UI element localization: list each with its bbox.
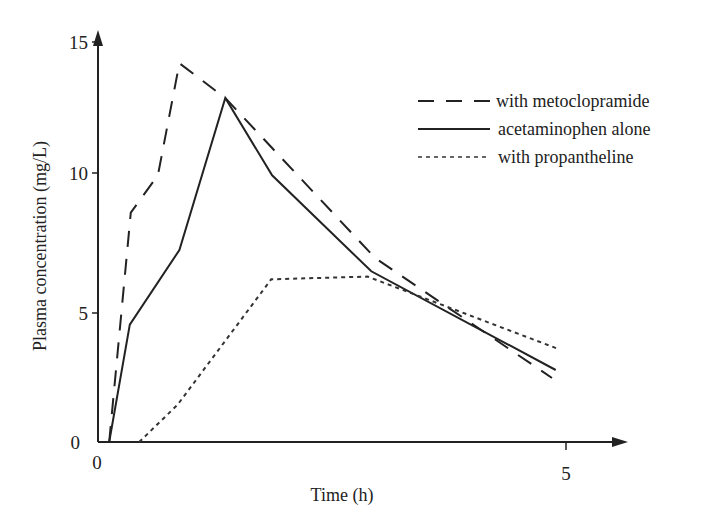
x-tick-label-0: 0 [92, 452, 102, 473]
y-tick-label-5: 5 [79, 303, 89, 324]
x-tick-label-5: 5 [561, 463, 571, 484]
series-with-propantheline [139, 277, 557, 442]
legend-label: acetaminophen alone [498, 119, 650, 139]
legend: with metoclopramide acetaminophen alone … [418, 91, 650, 167]
chart-canvas: 15 10 5 0 0 5 Time (h) Plasma concentrat… [0, 0, 712, 526]
legend-item-metoclopramide: with metoclopramide [418, 91, 649, 111]
legend-label: with metoclopramide [496, 91, 649, 111]
series-acetaminophen-alone [109, 98, 556, 442]
legend-item-propantheline: with propantheline [418, 147, 633, 167]
series-with-metoclopramide [109, 63, 552, 442]
x-axis-arrow-icon [612, 437, 628, 447]
y-axis-arrow-icon [93, 30, 103, 46]
y-tick-label-0: 0 [71, 432, 81, 453]
y-axis-title: Plasma concentration (mg/L) [30, 141, 51, 351]
y-tick-label-15: 15 [69, 32, 88, 53]
legend-label: with propantheline [498, 147, 633, 167]
series-layer [109, 63, 557, 442]
x-axis-title: Time (h) [311, 485, 374, 506]
y-tick-label-10: 10 [69, 163, 88, 184]
legend-item-acetaminophen: acetaminophen alone [418, 119, 650, 139]
